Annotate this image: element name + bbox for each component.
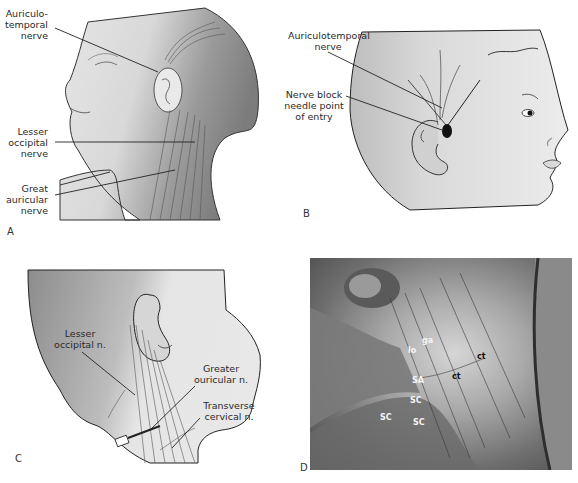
label-line: of entry	[284, 111, 344, 122]
label-great-auricular-nerve: Great auricular nerve	[0, 183, 48, 216]
panel-b: Auriculotemporal nerve Nerve block needl…	[290, 0, 578, 240]
label-ct-upper: ct	[477, 352, 486, 361]
label-sc-3: SC	[413, 418, 425, 427]
label-line: Lesser	[0, 126, 48, 137]
panel-letter-c: C	[15, 453, 22, 464]
label-line: nerve	[0, 205, 48, 216]
label-lesser-occipital-n: Lesser occipital n.	[50, 328, 110, 350]
label-line: temporal	[0, 19, 48, 30]
label-line: Greater	[186, 363, 256, 374]
label-line: Auriculotemporal	[288, 30, 368, 41]
panel-a: Auriculo- temporal nerve Lesser occipita…	[0, 0, 290, 240]
label-line: nerve	[0, 30, 48, 41]
label-line: Transverse	[198, 400, 260, 411]
label-line: nerve	[0, 148, 48, 159]
label-line: cervical n.	[198, 411, 260, 422]
label-line: occipital n.	[50, 339, 110, 350]
label-needle-point-of-entry: Nerve block needle point of entry	[284, 89, 344, 122]
label-ct-lower: ct	[452, 372, 461, 381]
dissection-photo-overlay	[310, 258, 572, 470]
label-line: needle point	[284, 100, 344, 111]
label-line: Auriculo-	[0, 8, 48, 19]
label-ga: ga	[422, 336, 433, 345]
panel-letter-b: B	[303, 208, 310, 219]
panel-d: D lo ga ct ct SA SC SC SC	[300, 250, 578, 483]
label-line: nerve	[288, 41, 368, 52]
dissection-photo: lo ga ct ct SA SC SC SC	[310, 258, 572, 470]
label-sc-1: SC	[410, 396, 422, 405]
label-transverse-cervical-n: Transverse cervical n.	[198, 400, 260, 422]
label-line: auricular	[0, 194, 48, 205]
label-line: occipital	[0, 137, 48, 148]
label-line: Great	[0, 183, 48, 194]
label-auriculotemporal-nerve-b: Auriculotemporal nerve	[288, 30, 368, 52]
panel-letter-a: A	[7, 226, 14, 237]
label-line: ouricular n.	[186, 374, 256, 385]
label-line: Lesser	[50, 328, 110, 339]
label-auriculotemporal-nerve: Auriculo- temporal nerve	[0, 8, 48, 41]
label-lesser-occipital-nerve: Lesser occipital nerve	[0, 126, 48, 159]
label-line: Nerve block	[284, 89, 344, 100]
panel-c: Lesser occipital n. Greater ouricular n.…	[0, 250, 300, 483]
label-sa: SA	[412, 376, 424, 385]
panel-letter-d: D	[300, 462, 308, 473]
label-sc-2: SC	[380, 413, 392, 422]
label-greater-auricular-n: Greater ouricular n.	[186, 363, 256, 385]
label-lo: lo	[408, 346, 416, 355]
